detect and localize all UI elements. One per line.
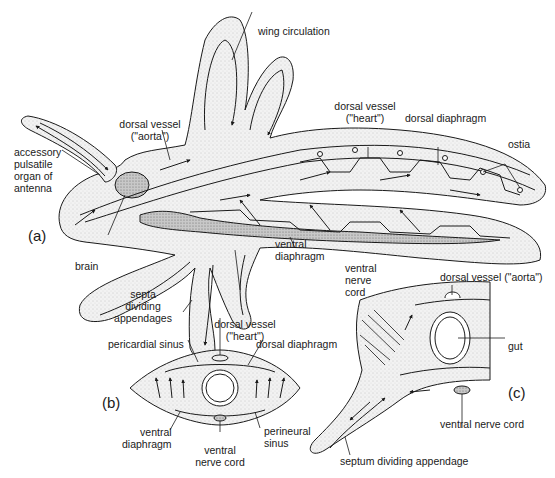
panel-tag-b: (b) <box>102 395 120 411</box>
label-ventral-nerve-cord-a: ventral nerve cord <box>345 262 377 298</box>
ventral-nerve-cord-b <box>214 415 226 421</box>
brain <box>115 172 149 198</box>
ventral-nerve-cord-c <box>454 386 470 394</box>
label-septum-dividing-appendage: septum dividing appendage <box>340 455 468 467</box>
label-ventral-diaphragm-b: ventral diaphragm <box>122 426 172 450</box>
label-dorsal-vessel-aorta: dorsal vessel ("aorta") <box>110 118 190 142</box>
label-ventral-diaphragm-a: ventral diaphragm <box>275 238 325 262</box>
label-dorsal-vessel-heart: dorsal vessel ("heart") <box>325 100 405 124</box>
label-perineural-sinus: perineural sinus <box>264 425 311 449</box>
label-wing-circulation: wing circulation <box>258 25 330 37</box>
gut-b <box>202 370 238 406</box>
panel-tag-a: (a) <box>28 228 46 244</box>
label-dorsal-diaphragm-b: dorsal diaphragm <box>256 338 337 350</box>
label-dorsal-diaphragm: dorsal diaphragm <box>405 112 486 124</box>
label-dorsal-vessel-aorta-c: dorsal vessel ("aorta") <box>440 271 543 283</box>
label-gut: gut <box>508 340 523 352</box>
panel-tag-c: (c) <box>508 385 526 401</box>
label-ventral-nerve-cord-c: ventral nerve cord <box>440 418 524 430</box>
label-brain: brain <box>75 260 98 272</box>
label-septa-dividing-appendages: septa dividing appendages <box>108 288 178 324</box>
label-pericardial-sinus: pericardial sinus <box>108 338 184 350</box>
label-ventral-nerve-cord-b: ventral nerve cord <box>190 444 250 468</box>
label-accessory-pulsatile-organ: accessory pulsatile organ of antenna <box>14 146 61 194</box>
label-ostia: ostia <box>508 138 530 150</box>
